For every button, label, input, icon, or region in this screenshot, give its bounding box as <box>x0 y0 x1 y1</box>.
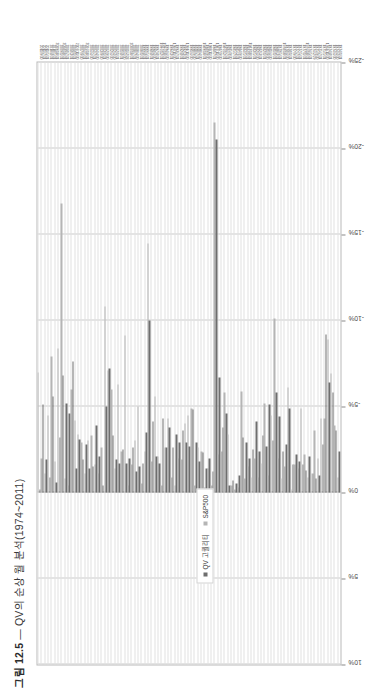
bar-group <box>174 62 177 664</box>
axis-tickmark <box>341 320 345 321</box>
legend-label-qv: QV 고퀄리티 <box>200 534 209 569</box>
bar-group <box>90 62 93 664</box>
axis-tick-label: -10% <box>348 315 363 322</box>
bar-qv <box>338 451 340 492</box>
bar-group <box>157 62 160 664</box>
bar-group <box>134 62 137 664</box>
category-label: 1982/3/31 <box>257 44 260 59</box>
bar-group <box>107 62 110 664</box>
category-label: 2009/10/31 <box>54 42 57 59</box>
bar-group <box>250 62 253 664</box>
category-label: 1993/7/31 <box>174 44 177 59</box>
axis-tickmark <box>341 234 345 235</box>
bar-group <box>37 62 40 664</box>
bar-group <box>217 62 220 664</box>
bar-group <box>257 62 260 664</box>
bar-group <box>227 62 230 664</box>
axis-tick-label: 5% <box>348 573 358 580</box>
bar-group <box>213 62 216 664</box>
category-label: 1977/5/31 <box>297 44 300 59</box>
legend-label-sp500: S&P500 <box>201 495 208 518</box>
category-axis-labels: 2011/9/302011/7/312011/5/312010/8/312010… <box>36 3 341 59</box>
bar-group <box>280 62 283 664</box>
bar-group <box>307 62 310 664</box>
bar-group <box>100 62 103 664</box>
bar-group <box>44 62 47 664</box>
bar-group <box>184 62 187 664</box>
figure-number: 그림 12.5 <box>12 642 24 687</box>
bar-group <box>233 62 236 664</box>
category-label: 2006/10/31 <box>84 42 87 59</box>
axis-tickmark <box>341 664 345 665</box>
category-label: 2006/4/30 <box>88 44 91 59</box>
bar-group <box>137 62 140 664</box>
bar-group <box>110 62 113 664</box>
category-label: 1990/4/30 <box>197 44 200 59</box>
axis-tick-label: -5% <box>348 401 360 408</box>
category-label: 2000/10/31 <box>128 42 131 59</box>
bar-sp500 <box>37 372 38 492</box>
category-label: 1979/5/31 <box>277 44 280 59</box>
bar-group <box>287 62 290 664</box>
plot-area <box>36 61 341 665</box>
bar-group <box>180 62 183 664</box>
category-label: 2011/5/31 <box>44 44 47 59</box>
bar-group <box>237 62 240 664</box>
bar-group <box>160 62 163 664</box>
bar-group <box>300 62 303 664</box>
legend-item-qv: QV 고퀄리티 <box>200 534 209 576</box>
axis-tickmark <box>341 148 345 149</box>
axis-tick-label: -15% <box>348 229 363 236</box>
bar-group <box>127 62 130 664</box>
figure-title: 그림 12.5—QV의 순상 월 분석(1974~2011) <box>10 478 25 687</box>
figure-canvas: 그림 12.5—QV의 순상 월 분석(1974~2011) QV 고퀄리티 S… <box>0 0 391 693</box>
bar-group <box>77 62 80 664</box>
category-label: 1991/6/30 <box>188 44 191 59</box>
bar-group <box>320 62 323 664</box>
bar-group <box>187 62 190 664</box>
value-axis: 10%5%0%-5%-10%-15%-20%-25% <box>341 61 381 665</box>
bar-group <box>190 62 193 664</box>
bar-sp500 <box>227 434 228 492</box>
bar-group <box>267 62 270 664</box>
category-label: 1985/9/30 <box>227 44 230 59</box>
bar-group <box>260 62 263 664</box>
bar-group <box>64 62 67 664</box>
bar-group <box>120 62 123 664</box>
bar-group <box>283 62 286 664</box>
axis-tickmark <box>341 578 345 579</box>
category-label: 2002/9/30 <box>104 44 107 59</box>
bar-group <box>50 62 53 664</box>
axis-tick-label: 10% <box>348 659 361 666</box>
category-label: 1974/8/31 <box>327 44 330 59</box>
category-label: 2008/7/31 <box>64 44 67 59</box>
bar-group <box>114 62 117 664</box>
bar-group <box>67 62 70 664</box>
category-label: 1999/5/31 <box>144 44 147 59</box>
category-label: 1981/6/30 <box>267 44 270 59</box>
bar-group <box>57 62 60 664</box>
category-label: 2007/9/30 <box>78 44 81 59</box>
category-label: 1984/9/30 <box>237 44 240 59</box>
bar-group <box>117 62 120 664</box>
bar-group <box>97 62 100 664</box>
bar-group <box>80 62 83 664</box>
axis-tick-label: -20% <box>348 143 363 150</box>
category-label: 2000/4/30 <box>134 44 137 59</box>
bar-group <box>220 62 223 664</box>
bar-group <box>253 62 256 664</box>
chart-legend: QV 고퀄리티 S&P500 <box>196 488 213 583</box>
bar-group <box>60 62 63 664</box>
bar-group <box>223 62 226 664</box>
bar-group <box>263 62 266 664</box>
bar-group <box>94 62 97 664</box>
category-label: 1991/11/30 <box>184 42 187 59</box>
bar-group <box>230 62 233 664</box>
bar-group <box>290 62 293 664</box>
category-label: 1994/6/30 <box>164 44 167 59</box>
bar-group <box>323 62 326 664</box>
bar-group <box>170 62 173 664</box>
bar-group <box>144 62 147 664</box>
axis-tickmark <box>341 406 345 407</box>
bar-group <box>270 62 273 664</box>
